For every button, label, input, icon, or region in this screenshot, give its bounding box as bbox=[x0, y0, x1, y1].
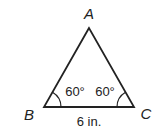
side-label-bc: 6 in. bbox=[77, 114, 102, 129]
angle-label-b: 60° bbox=[65, 84, 85, 99]
vertex-label-c: C bbox=[141, 105, 152, 122]
angle-arc-c bbox=[117, 92, 126, 107]
vertex-label-b: B bbox=[24, 106, 34, 123]
angle-label-c: 60° bbox=[95, 84, 115, 99]
angle-arc-b bbox=[53, 92, 62, 107]
vertex-label-a: A bbox=[83, 5, 94, 22]
triangle-abc bbox=[44, 28, 134, 107]
triangle-diagram: A B C 60° 60° 6 in. bbox=[0, 0, 161, 134]
